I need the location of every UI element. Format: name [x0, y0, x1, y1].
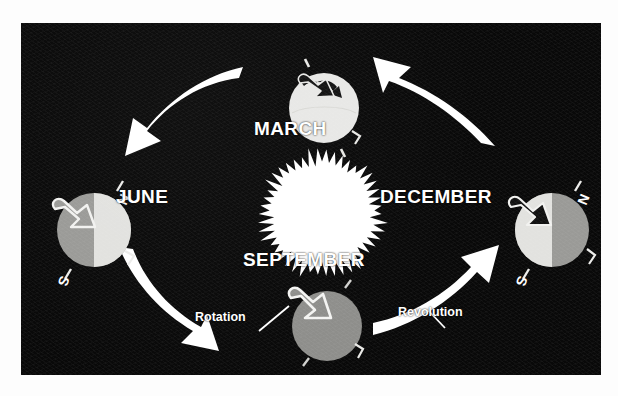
label-march: MARCH	[254, 118, 327, 140]
label-september: SEPTEMBER	[243, 249, 365, 271]
diagram-panel: N S	[21, 23, 601, 375]
leader-line-rotation	[259, 306, 289, 331]
callout-revolution: Revolution	[398, 305, 463, 319]
seasons-diagram: N S	[0, 0, 618, 396]
callout-leader-lines	[21, 23, 601, 375]
callout-rotation: Rotation	[195, 310, 246, 324]
label-december: DECEMBER	[380, 186, 492, 208]
label-june: JUNE	[116, 186, 168, 208]
